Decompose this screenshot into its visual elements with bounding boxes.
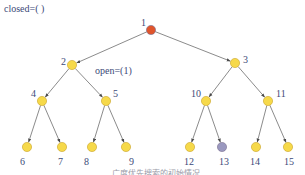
node-circle-icon	[146, 25, 155, 34]
edge-3-10	[209, 67, 232, 97]
node-label: 5	[113, 88, 118, 99]
tree-node-15: 15	[283, 142, 294, 167]
edge-4-6	[29, 105, 41, 142]
node-circle-icon	[57, 142, 66, 151]
edge-5-9	[108, 105, 124, 142]
node-label: 15	[284, 156, 294, 167]
edge-11-15	[270, 105, 286, 142]
tree-node-4: 4	[31, 88, 47, 106]
node-circle-icon	[22, 142, 31, 151]
edge-3-11	[238, 66, 265, 97]
search-tree-diagram: 123451011678912131415 closed=( ) open=(1…	[0, 0, 305, 175]
node-circle-icon	[37, 96, 46, 105]
node-circle-icon	[87, 142, 96, 151]
node-label: 14	[250, 156, 260, 167]
node-label: 8	[84, 156, 89, 167]
tree-node-1: 1	[141, 17, 156, 35]
nodes-group: 123451011678912131415	[20, 17, 294, 167]
node-circle-icon	[121, 142, 130, 151]
edge-2-4	[45, 69, 69, 98]
tree-node-12: 12	[184, 142, 195, 167]
edge-1-2	[77, 32, 147, 63]
edge-11-14	[257, 105, 267, 142]
tree-node-2: 2	[61, 56, 77, 70]
node-label: 11	[276, 88, 286, 99]
node-label: 13	[219, 156, 229, 167]
open-list-label: open=(1)	[95, 65, 132, 77]
node-circle-icon	[283, 142, 292, 151]
node-circle-icon	[67, 60, 76, 69]
node-circle-icon	[217, 142, 226, 151]
edge-4-7	[44, 105, 60, 142]
node-circle-icon	[230, 58, 239, 67]
tree-node-8: 8	[84, 142, 97, 167]
node-circle-icon	[251, 142, 260, 151]
edge-10-12	[192, 105, 205, 142]
node-circle-icon	[263, 96, 272, 105]
tree-node-7: 7	[57, 142, 66, 167]
node-label: 4	[31, 88, 36, 99]
node-label: 9	[129, 156, 134, 167]
node-circle-icon	[101, 96, 110, 105]
edge-1-3	[155, 32, 230, 61]
node-label: 7	[58, 156, 63, 167]
node-circle-icon	[201, 96, 210, 105]
tree-node-11: 11	[263, 88, 285, 106]
tree-node-13: 13	[217, 142, 229, 167]
edge-5-8	[93, 105, 104, 142]
tree-node-6: 6	[20, 142, 32, 167]
tree-node-3: 3	[230, 54, 248, 68]
edge-10-13	[208, 105, 221, 142]
node-label: 12	[184, 156, 194, 167]
tree-node-10: 10	[191, 88, 211, 106]
figure-caption: 广度优先搜索的初始情况	[112, 168, 200, 175]
closed-list-label: closed=( )	[4, 3, 44, 15]
tree-node-9: 9	[121, 142, 134, 167]
tree-node-5: 5	[101, 88, 118, 106]
node-label: 1	[141, 17, 146, 28]
node-circle-icon	[185, 142, 194, 151]
node-label: 6	[20, 156, 25, 167]
node-label: 3	[243, 54, 248, 65]
tree-node-14: 14	[250, 142, 261, 167]
node-label: 10	[191, 88, 201, 99]
edges-group	[29, 32, 286, 143]
node-label: 2	[61, 56, 66, 67]
